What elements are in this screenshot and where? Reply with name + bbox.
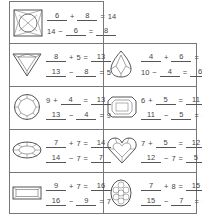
given-number: 14 xyxy=(46,27,56,36)
equation-addition: 4 + 6 = 10 xyxy=(140,52,202,62)
plus-sign: + xyxy=(162,182,170,191)
answer-blank[interactable]: 16 xyxy=(46,196,66,206)
equals-sign: = xyxy=(87,27,95,36)
pear-gem-icon xyxy=(110,50,132,78)
plus-sign: + xyxy=(68,12,76,21)
equation-subtraction: 11 − 5 = 6 xyxy=(140,110,202,120)
equals-sign: = xyxy=(177,139,185,148)
answer-blank[interactable]: 12 xyxy=(186,138,202,148)
equals-sign: = xyxy=(192,111,200,120)
equation-subtraction: 15 − 7 = 8 xyxy=(140,196,202,206)
answer-blank[interactable]: 5 xyxy=(156,138,176,148)
minus-sign: − xyxy=(162,197,170,206)
given-number: 10 xyxy=(201,53,202,62)
answer-blank[interactable]: 4 xyxy=(76,110,96,120)
answer-blank[interactable]: 5 xyxy=(171,110,191,120)
answer-blank[interactable]: 4 xyxy=(61,95,81,105)
answer-blank[interactable]: 6 xyxy=(47,11,67,21)
minus-sign: − xyxy=(162,154,170,163)
answer-blank[interactable]: 6 xyxy=(190,67,202,77)
plus-sign: + xyxy=(67,182,75,191)
equation-addition: 6 + 5 = 11 xyxy=(140,95,202,105)
equals-sign: = xyxy=(177,182,185,191)
equation-subtraction: 16 − 9 = 7 xyxy=(45,196,112,206)
answer-blank[interactable]: 11 xyxy=(141,110,161,120)
answer-blank[interactable]: 4 xyxy=(141,52,161,62)
given-number: 10 xyxy=(140,68,150,77)
answer-blank[interactable]: 8 xyxy=(77,11,97,21)
equals-sign: = xyxy=(82,182,90,191)
answer-blank[interactable]: 8 xyxy=(46,52,66,62)
oval-gem-icon xyxy=(12,141,42,159)
trillion-gem-icon xyxy=(12,50,42,78)
minus-sign: − xyxy=(67,68,75,77)
problem-cell-4: 9 + 4 = 13 13 − 4 = 9 xyxy=(9,86,104,129)
equals-sign: = xyxy=(82,53,90,62)
answer-blank[interactable]: 15 xyxy=(186,181,202,191)
answer-blank[interactable]: 11 xyxy=(186,95,202,105)
problem-cell-9: 7 + 8 = 15 15 − 7 = 8 xyxy=(104,172,197,214)
equation-addition: 8 + 5 = 13 xyxy=(45,52,112,62)
minus-sign: − xyxy=(67,154,75,163)
problem-cell-5: 6 + 5 = 11 11 − 5 = 6 xyxy=(104,86,197,129)
answer-blank[interactable]: 6 xyxy=(66,26,86,36)
equation-subtraction: 14 − 7 = 7 xyxy=(45,153,112,163)
answer-blank[interactable]: 12 xyxy=(141,153,161,163)
minus-sign: − xyxy=(162,111,170,120)
answer-blank[interactable]: 13 xyxy=(46,67,66,77)
answer-blank[interactable]: 7 xyxy=(46,138,66,148)
equation-subtraction: 10 − 4 = 6 xyxy=(140,67,202,77)
equation-subtraction: 14 − 6 = 8 xyxy=(46,26,117,36)
answer-blank[interactable]: 9 xyxy=(46,181,66,191)
answer-blank[interactable]: 5 xyxy=(186,153,202,163)
equals-sign: = xyxy=(192,53,200,62)
plus-sign: + xyxy=(67,139,75,148)
emerald-cut-gem-icon xyxy=(107,96,137,118)
problem-cell-1: 6 + 8 = 14 14 − 6 = 8 xyxy=(9,1,104,44)
equation-addition: 7 + 8 = 15 xyxy=(140,181,202,191)
equation-subtraction: 13 − 4 = 9 xyxy=(45,110,112,120)
equation-subtraction: 13 − 8 = 5 xyxy=(45,67,112,77)
plus-sign: + xyxy=(67,53,75,62)
heart-gem-icon xyxy=(107,136,137,164)
equation-addition: 6 + 8 = 14 xyxy=(46,11,117,21)
baguette-gem-icon xyxy=(12,186,42,200)
equation-subtraction: 12 − 7 = 5 xyxy=(140,153,202,163)
problem-cell-6: 7 + 7 = 14 14 − 7 = 7 xyxy=(9,129,104,172)
minus-sign: − xyxy=(67,111,75,120)
plus-sign: + xyxy=(51,96,59,105)
minus-sign: − xyxy=(56,27,64,36)
answer-blank[interactable]: 5 xyxy=(156,95,176,105)
round-brilliant-gem-icon xyxy=(12,93,42,121)
plus-sign: + xyxy=(146,139,154,148)
oval-faceted-gem-icon xyxy=(110,179,132,207)
given-number: 8 xyxy=(201,197,202,206)
equation-addition: 9 + 4 = 13 xyxy=(45,95,112,105)
given-number: 14 xyxy=(107,12,117,21)
equals-sign: = xyxy=(177,96,185,105)
plus-sign: + xyxy=(162,53,170,62)
answer-blank[interactable]: 14 xyxy=(46,153,66,163)
answer-blank[interactable]: 9 xyxy=(76,196,96,206)
answer-blank[interactable]: 7 xyxy=(171,196,191,206)
minus-sign: − xyxy=(150,68,158,77)
problem-cell-8: 9 + 7 = 16 16 − 9 = 7 xyxy=(9,172,104,214)
equals-sign: = xyxy=(177,154,185,163)
problem-cell-2: 8 + 5 = 13 13 − 8 = 5 xyxy=(9,43,104,86)
answer-blank[interactable]: 4 xyxy=(160,67,180,77)
answer-blank[interactable]: 8 xyxy=(96,26,116,36)
answer-blank[interactable]: 8 xyxy=(76,67,96,77)
equation-addition: 9 + 7 = 16 xyxy=(45,181,112,191)
minus-sign: − xyxy=(67,197,75,206)
answer-blank[interactable]: 6 xyxy=(171,52,191,62)
answer-blank[interactable]: 13 xyxy=(46,110,66,120)
answer-blank[interactable]: 7 xyxy=(141,181,161,191)
worksheet: 6 + 8 = 14 14 − 6 = 8 8 + 5 = 13 1 xyxy=(9,1,197,214)
equation-addition: 7 + 5 = 12 xyxy=(140,138,202,148)
equals-sign: = xyxy=(82,154,90,163)
equation-addition: 7 + 7 = 14 xyxy=(45,138,112,148)
equals-sign: = xyxy=(82,139,90,148)
answer-blank[interactable]: 15 xyxy=(141,196,161,206)
equals-sign: = xyxy=(82,96,90,105)
equals-sign: = xyxy=(181,68,189,77)
